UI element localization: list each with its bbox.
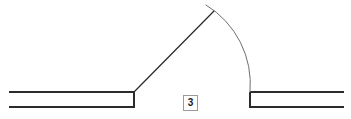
left-horizontal-band	[9, 92, 135, 108]
angle-dimension-label-text: 3	[188, 98, 194, 108]
angle-dimension-label-box[interactable]: 3	[183, 95, 198, 111]
right-horizontal-band	[250, 92, 345, 108]
inclined-leg-line	[134, 11, 214, 92]
technical-drawing-canvas: 3	[0, 0, 351, 119]
angular-dimension-arc	[206, 5, 250, 92]
drawing-vector-layer	[0, 0, 351, 119]
